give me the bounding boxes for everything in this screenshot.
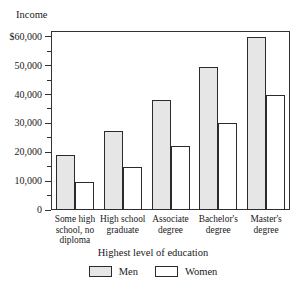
y-tick-label: 50,000 bbox=[15, 61, 43, 71]
bar-men-0 bbox=[56, 155, 75, 210]
legend-item-men[interactable]: Men bbox=[89, 266, 138, 277]
bar-women-0 bbox=[75, 182, 94, 210]
y-tick-label: 40,000 bbox=[15, 90, 43, 100]
bar-women-4 bbox=[266, 95, 285, 210]
bar-men-4 bbox=[247, 37, 266, 210]
legend: Men Women bbox=[0, 266, 306, 277]
bar-women-3 bbox=[218, 123, 237, 210]
x-category-label: Some highschool, nodiploma bbox=[51, 214, 99, 246]
bar-men-2 bbox=[152, 100, 171, 210]
legend-label-women: Women bbox=[185, 266, 217, 277]
legend-item-women[interactable]: Women bbox=[155, 266, 217, 277]
x-category-label: Master'sdegree bbox=[242, 214, 290, 235]
y-tick-label: 10,000 bbox=[15, 176, 43, 186]
bars-layer bbox=[51, 31, 290, 210]
bar-men-3 bbox=[199, 67, 218, 210]
legend-label-men: Men bbox=[119, 266, 138, 277]
y-axis-title: Income bbox=[16, 9, 48, 21]
income-by-education-bar-chart: Income 010,00020,00030,00040,00050,000$6… bbox=[0, 0, 306, 288]
x-category-label: High schoolgraduate bbox=[99, 214, 147, 235]
bar-men-1 bbox=[104, 131, 123, 210]
legend-swatch-men-icon bbox=[89, 266, 112, 277]
x-category-label: Associatedegree bbox=[147, 214, 195, 235]
y-tick-label: 0 bbox=[37, 205, 42, 215]
x-axis-title: Highest level of education bbox=[0, 247, 306, 259]
y-tick-label: 20,000 bbox=[15, 147, 43, 157]
y-tick-label: 30,000 bbox=[15, 118, 43, 128]
x-category-label: Bachelor'sdegree bbox=[194, 214, 242, 235]
legend-swatch-women-icon bbox=[155, 266, 178, 277]
y-tick-label: $60,000 bbox=[10, 32, 43, 42]
bar-women-1 bbox=[123, 167, 142, 210]
bar-women-2 bbox=[171, 146, 190, 210]
